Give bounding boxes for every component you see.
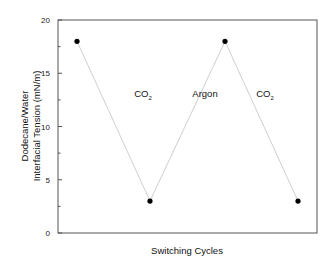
- data-point: [295, 198, 300, 203]
- x-axis-title: Switching Cycles: [151, 245, 223, 256]
- data-point: [74, 39, 79, 44]
- annotation-label: CO2: [134, 88, 152, 101]
- y-axis-title-line1: Dodecane/Water: [19, 91, 30, 162]
- data-point: [222, 39, 227, 44]
- y-axis-title: Dodecane/Water Interfacial Tension (mN/m…: [19, 71, 42, 182]
- annotation-label: CO2: [256, 88, 274, 101]
- annotations: CO2ArgonCO2: [134, 88, 274, 101]
- data-point: [147, 198, 152, 203]
- y-tick-label: 5: [46, 176, 51, 185]
- series-line: [77, 41, 298, 201]
- annotation-label: Argon: [192, 88, 217, 99]
- y-axis: 05101520: [41, 16, 62, 238]
- y-tick-label: 10: [41, 123, 50, 132]
- y-tick-label: 0: [46, 229, 51, 238]
- plot-frame: [58, 20, 317, 233]
- y-tick-label: 15: [41, 69, 50, 78]
- chart: 05101520 CO2ArgonCO2 Switching Cycles Do…: [0, 0, 333, 266]
- y-axis-title-line2: Interfacial Tension (mN/m): [31, 71, 42, 182]
- y-tick-label: 20: [41, 16, 50, 25]
